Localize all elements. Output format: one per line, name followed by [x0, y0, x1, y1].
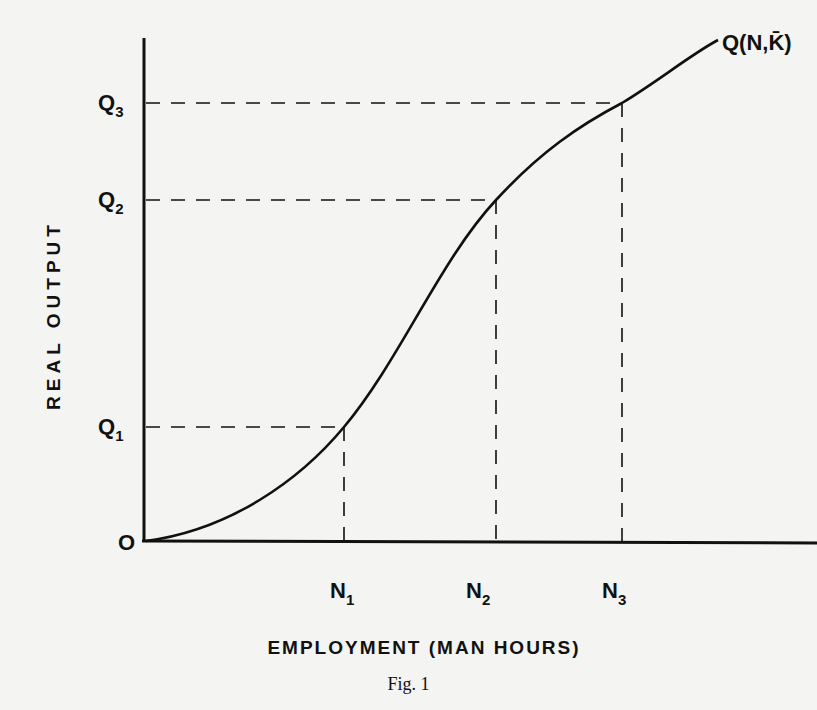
svg-text:Q1: Q1	[98, 414, 123, 444]
figure-caption: Fig. 1	[0, 674, 817, 695]
svg-text:Q3: Q3	[98, 90, 123, 120]
production-function-chart: Q(N,K̄) O Q3 Q2 Q1 N1 N2 N3 REAL OUTPUT …	[0, 0, 817, 670]
x-tick-n3: N3	[602, 578, 626, 608]
y-tick-q1: Q1	[98, 414, 123, 444]
svg-text:N1: N1	[330, 578, 354, 608]
x-tick-n1: N1	[330, 578, 354, 608]
y-tick-q3: Q3	[98, 90, 123, 120]
reference-lines	[146, 103, 622, 541]
production-curve	[146, 40, 718, 541]
origin-label: O	[118, 530, 135, 555]
svg-text:N2: N2	[466, 578, 490, 608]
svg-text:Q2: Q2	[98, 187, 123, 217]
curve-label: Q(N,K̄)	[722, 30, 792, 55]
y-tick-q2: Q2	[98, 187, 123, 217]
y-axis-title: REAL OUTPUT	[43, 220, 64, 410]
x-tick-n2: N2	[466, 578, 490, 608]
x-axis	[142, 541, 817, 543]
x-axis-title: EMPLOYMENT (MAN HOURS)	[267, 637, 580, 658]
svg-text:N3: N3	[602, 578, 626, 608]
